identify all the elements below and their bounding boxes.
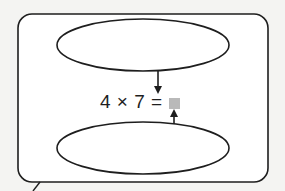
unknown-square-icon — [169, 98, 180, 109]
multiply-operator: × — [117, 91, 129, 112]
bottom-oval[interactable] — [57, 122, 229, 174]
equation: 4 × 7 = — [100, 91, 180, 113]
equals-sign: = — [151, 91, 163, 112]
pointer-line — [33, 182, 40, 191]
factor-b: 7 — [134, 91, 145, 112]
factor-a: 4 — [100, 91, 111, 112]
top-oval[interactable] — [57, 19, 229, 71]
